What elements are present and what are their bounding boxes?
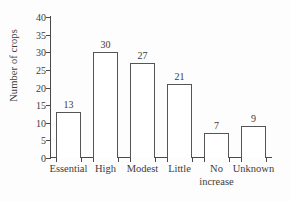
y-tick xyxy=(46,35,50,36)
y-tick xyxy=(46,140,50,141)
x-tick xyxy=(167,158,168,162)
x-tick xyxy=(266,158,267,162)
y-tick xyxy=(46,70,50,71)
y-tick-label: 5 xyxy=(20,140,46,141)
x-axis-line xyxy=(50,157,272,158)
x-tick xyxy=(56,158,57,162)
x-tick xyxy=(229,158,230,162)
plot-area: 1330272179 xyxy=(50,17,272,158)
y-tick xyxy=(46,88,50,89)
y-tick-label: 10 xyxy=(20,123,46,124)
x-tick xyxy=(155,158,156,162)
x-tick xyxy=(118,158,119,162)
y-tick-label: 20 xyxy=(20,88,46,89)
x-tick xyxy=(241,158,242,162)
x-category-label-line: Unknown xyxy=(229,163,278,176)
y-tick xyxy=(46,52,50,53)
y-tick-label: 15 xyxy=(20,105,46,106)
bar xyxy=(130,63,155,158)
y-tick-label: 35 xyxy=(20,35,46,36)
x-category-label-line: increase xyxy=(192,176,241,189)
x-tick xyxy=(81,158,82,162)
y-tick-label: 30 xyxy=(20,52,46,53)
bar-value-label: 13 xyxy=(46,99,91,110)
bar-value-label: 27 xyxy=(120,50,165,61)
y-tick xyxy=(46,158,50,159)
y-axis-title: Number of crops xyxy=(8,6,19,126)
bar xyxy=(93,52,118,158)
x-tick xyxy=(130,158,131,162)
y-axis-line xyxy=(50,16,51,159)
bar xyxy=(241,126,266,158)
x-tick xyxy=(93,158,94,162)
bar-chart: Number of crops 1330272179 0510152025303… xyxy=(0,0,290,201)
bar xyxy=(167,84,192,158)
y-tick-label: 0 xyxy=(20,158,46,159)
y-tick-label: 40 xyxy=(20,17,46,18)
bar-value-label: 9 xyxy=(231,113,276,124)
x-tick xyxy=(204,158,205,162)
x-tick xyxy=(192,158,193,162)
y-tick xyxy=(46,123,50,124)
bar xyxy=(56,112,81,158)
bar-value-label: 30 xyxy=(83,39,128,50)
x-category-label: Unknown xyxy=(229,163,278,176)
bar-value-label: 21 xyxy=(157,71,202,82)
y-tick-label: 25 xyxy=(20,70,46,71)
bar xyxy=(204,133,229,158)
y-tick xyxy=(46,17,50,18)
